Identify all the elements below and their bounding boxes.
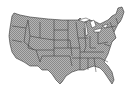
us-outline bbox=[9, 7, 124, 84]
states bbox=[9, 7, 124, 84]
us-map bbox=[0, 0, 134, 93]
